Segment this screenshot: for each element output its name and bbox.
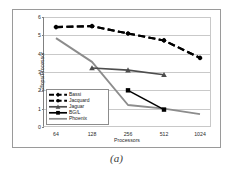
y-tick-label: 0 <box>38 124 41 130</box>
x-axis-title: Processors <box>114 137 140 143</box>
legend-label: Phoenix <box>69 116 87 122</box>
figure-caption: (a) <box>0 152 233 164</box>
legend-swatch-icon <box>49 110 67 116</box>
legend-item-phoenix: Phoenix <box>49 116 106 122</box>
figure-panel: 0123456 641282565121024 Gflops/Processor… <box>0 0 233 183</box>
x-tick-label: 1024 <box>194 131 206 137</box>
legend-swatch-icon <box>49 98 67 104</box>
series-bg-l <box>126 88 166 112</box>
x-tick-label: 64 <box>53 131 59 137</box>
plot-area: 0123456 641282565121024 Gflops/Processor… <box>43 17 211 127</box>
chart-legend: BassiJacquardJaguarBG/LPhoenix <box>46 89 109 125</box>
chart-frame: 0123456 641282565121024 Gflops/Processor… <box>12 9 221 148</box>
y-tick-mark <box>42 127 44 128</box>
x-tick-label: 512 <box>160 131 169 137</box>
y-axis-title: Gflops/Processor <box>39 52 45 92</box>
y-tick-label: 5 <box>38 32 41 38</box>
series-jacquard <box>54 24 202 60</box>
legend-swatch-icon <box>49 92 67 98</box>
series-bassi <box>53 24 202 61</box>
x-tick-label: 128 <box>88 131 97 137</box>
legend-swatch-icon <box>49 104 67 110</box>
legend-swatch-icon <box>49 116 67 122</box>
y-tick-label: 6 <box>38 14 41 20</box>
y-tick-label: 1 <box>38 106 41 112</box>
